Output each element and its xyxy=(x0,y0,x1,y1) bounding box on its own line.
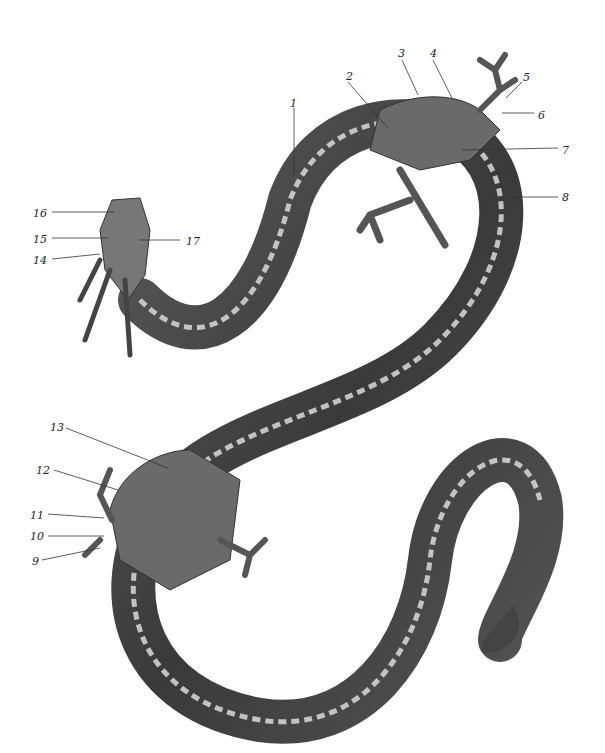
leader-line xyxy=(66,428,168,468)
forelimb-right xyxy=(480,55,515,110)
callout-label: 2 xyxy=(346,71,353,82)
callout-label: 16 xyxy=(33,208,47,219)
callout-label: 10 xyxy=(30,531,44,542)
leader-line xyxy=(52,254,100,259)
callout-label: 3 xyxy=(398,48,405,59)
lizard-body xyxy=(133,121,541,722)
callout-label: 4 xyxy=(430,48,437,59)
callout-label: 1 xyxy=(290,98,297,109)
callout-label: 7 xyxy=(562,145,569,156)
hindlimb-left xyxy=(85,470,112,555)
callout-label: 15 xyxy=(33,234,47,245)
callout-label: 5 xyxy=(523,72,530,83)
callout-label: 11 xyxy=(30,510,44,521)
callout-label: 12 xyxy=(36,465,50,476)
lizard-musculature-illustration xyxy=(0,0,605,753)
forelimb-left xyxy=(360,170,445,245)
leader-line xyxy=(48,514,104,518)
callout-label: 9 xyxy=(32,556,39,567)
leader-line xyxy=(402,60,418,95)
callout-label: 17 xyxy=(186,236,200,247)
callout-label: 14 xyxy=(33,255,47,266)
callout-label: 8 xyxy=(562,192,569,203)
callout-label: 13 xyxy=(50,422,64,433)
leader-line xyxy=(433,60,452,98)
leader-line xyxy=(42,548,100,560)
callout-label: 6 xyxy=(538,110,545,121)
